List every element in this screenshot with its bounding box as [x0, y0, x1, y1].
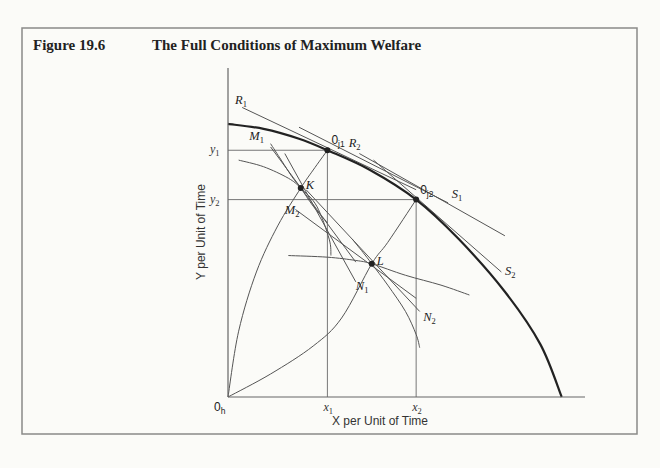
welfare-chart: x1x2y1y2 0h 0j10j2KL R1R2S1S2M1M2N1N2 X …: [0, 0, 660, 468]
production-possibility-curve: [228, 124, 562, 397]
point-label-oj1: 0j1: [331, 133, 345, 149]
label-r2: R2: [348, 136, 361, 152]
y-tick-label-2: y2: [209, 192, 220, 208]
point-oj2: [413, 197, 419, 203]
point-L: [369, 261, 375, 267]
tangent-line-s2: [374, 160, 502, 272]
label-m2: M2: [284, 203, 300, 219]
label-n2: N2: [422, 310, 436, 326]
label-s1: S1: [452, 187, 463, 203]
point-label-L: L: [376, 254, 384, 268]
label-m1: M1: [248, 129, 264, 145]
label-n1: N1: [355, 279, 369, 295]
label-s2: S2: [505, 264, 516, 280]
y-axis-label: Y per Unit of Time: [194, 184, 208, 280]
y-tick-label-1: y1: [209, 142, 220, 158]
x-axis-label: X per Unit of Time: [332, 414, 428, 428]
point-label-oj2: 0j2: [420, 183, 434, 199]
origin-label: 0h: [214, 400, 226, 416]
point-label-K: K: [305, 178, 315, 192]
tangent-line-n2: [306, 190, 420, 312]
point-oj1: [324, 147, 330, 153]
figure-border: [22, 28, 637, 434]
point-K: [298, 185, 304, 191]
label-r1: R1: [234, 93, 247, 109]
